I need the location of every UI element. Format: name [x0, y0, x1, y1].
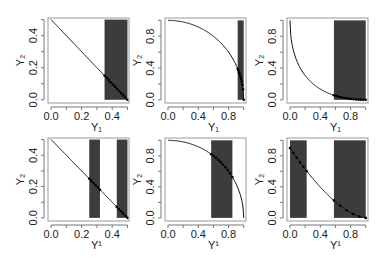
data-point — [338, 95, 341, 98]
data-point — [114, 85, 117, 88]
data-point — [299, 161, 302, 164]
y-tick-label: 0.0 — [27, 210, 39, 225]
data-point — [360, 98, 363, 101]
y-tick-label: 0.0 — [144, 210, 156, 225]
y-tick-label: 0.4 — [27, 148, 39, 163]
data-point — [122, 212, 125, 215]
y-tick-label: 0.4 — [266, 60, 278, 75]
data-point — [105, 77, 108, 80]
y-tick-label: 0.8 — [144, 148, 156, 163]
y-tick-label: 0.0 — [266, 92, 278, 107]
data-point — [224, 166, 227, 169]
data-point — [342, 97, 345, 100]
figure-grid: 0.00.20.4Y₁0.00.20.4Y₂0.00.40.8Y₁0.00.40… — [0, 0, 383, 262]
data-point — [350, 98, 353, 101]
data-point — [94, 184, 97, 187]
data-point — [240, 80, 243, 83]
x-axis-label: Y¹ — [91, 239, 102, 251]
x-tick-label: 0.0 — [43, 228, 58, 240]
data-point — [352, 98, 355, 101]
data-point — [88, 177, 91, 180]
panel-row2-col2: 0.00.40.8Y¹0.00.40.8Y₂ — [131, 138, 246, 251]
y-tick-label: 0.4 — [144, 179, 156, 194]
x-axis-label: Y₁ — [330, 121, 341, 133]
data-point — [217, 159, 220, 162]
data-point — [122, 94, 125, 97]
shaded-region — [211, 140, 232, 218]
x-tick-label: 0.8 — [221, 228, 236, 240]
data-point — [295, 156, 298, 159]
data-point — [92, 182, 95, 185]
data-point — [118, 208, 121, 211]
data-point — [210, 153, 213, 156]
data-point — [222, 163, 225, 166]
y-axis-label: Y₂ — [14, 55, 26, 67]
x-tick-label: 0.2 — [74, 110, 89, 122]
data-point — [242, 88, 245, 91]
panel-row1-col1: 0.00.20.4Y₁0.00.20.4Y₂ — [14, 18, 129, 133]
data-point — [103, 74, 106, 77]
data-point — [229, 172, 232, 175]
data-point — [124, 214, 127, 217]
data-point — [212, 155, 215, 158]
x-tick-label: 0.8 — [343, 110, 358, 122]
data-point — [362, 99, 365, 102]
data-point — [215, 156, 218, 159]
x-tick-label: 0.8 — [343, 228, 358, 240]
shaded-region — [117, 140, 128, 218]
x-tick-label: 0.4 — [105, 110, 120, 122]
y-axis-label: Y₂ — [131, 174, 143, 186]
data-point — [124, 96, 127, 99]
data-point — [115, 206, 118, 209]
data-point — [120, 210, 123, 213]
x-axis-label: Y¹ — [208, 239, 219, 251]
data-point — [364, 217, 367, 220]
data-point — [357, 98, 360, 101]
y-tick-label: 0.8 — [144, 29, 156, 44]
data-point — [345, 97, 348, 100]
y-tick-label: 0.2 — [27, 179, 39, 194]
data-point — [99, 188, 102, 191]
data-point — [364, 99, 367, 102]
data-point — [219, 161, 222, 164]
x-axis-label: Y¹ — [330, 239, 341, 251]
data-point — [305, 170, 308, 173]
x-tick-label: 0.0 — [43, 110, 58, 122]
data-point — [126, 217, 129, 220]
data-point — [231, 176, 234, 179]
x-tick-label: 0.0 — [160, 228, 175, 240]
data-point — [333, 94, 336, 97]
y-axis-label: Y₂ — [14, 174, 26, 186]
data-point — [358, 215, 361, 218]
data-point — [240, 78, 243, 81]
data-point — [347, 97, 350, 100]
y-tick-label: 0.8 — [266, 29, 278, 44]
y-axis-label: Y₂ — [253, 174, 265, 186]
x-tick-label: 0.4 — [105, 228, 120, 240]
panel-row2-col1: 0.00.20.4Y¹0.00.20.4Y₂ — [14, 138, 129, 251]
x-tick-label: 0.4 — [313, 110, 328, 122]
chart-canvas: 0.00.20.4Y₁0.00.20.4Y₂0.00.40.8Y₁0.00.40… — [0, 0, 383, 262]
shaded-region — [334, 140, 366, 218]
y-tick-label: 0.0 — [266, 210, 278, 225]
x-tick-label: 0.8 — [221, 110, 236, 122]
data-point — [289, 147, 292, 150]
frontier-curve — [168, 20, 244, 99]
data-point — [333, 199, 336, 202]
panel-row2-col3: 0.00.40.8Y¹0.00.40.8Y₂ — [253, 138, 368, 251]
y-axis-label: Y₂ — [131, 55, 143, 67]
x-axis-label: Y₁ — [208, 121, 219, 133]
data-point — [335, 95, 338, 98]
data-point — [339, 204, 342, 207]
data-point — [120, 92, 123, 95]
y-tick-label: 0.0 — [27, 92, 39, 107]
data-point — [242, 99, 245, 102]
data-point — [239, 75, 242, 78]
panel-row1-col2: 0.00.40.8Y₁0.00.40.8Y₂ — [131, 18, 246, 133]
data-point — [97, 186, 100, 189]
x-tick-label: 0.4 — [191, 228, 206, 240]
y-tick-label: 0.8 — [266, 148, 278, 163]
x-axis-label: Y₁ — [91, 121, 102, 133]
data-point — [107, 79, 110, 82]
shaded-region — [89, 140, 100, 218]
